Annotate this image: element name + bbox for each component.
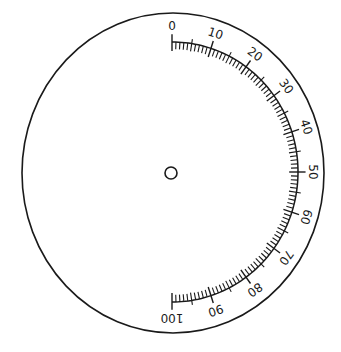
scale-tick (267, 243, 280, 253)
scale-tick (291, 184, 298, 185)
scale-tick (219, 53, 222, 60)
center-hole (165, 167, 177, 179)
scale-tick (281, 120, 287, 123)
scale-tick (289, 191, 301, 193)
scale-tick (261, 253, 266, 258)
scale-tick (251, 74, 256, 79)
scale-tick (219, 285, 222, 292)
scale-tick (229, 58, 232, 64)
scale-tick (216, 51, 219, 58)
scale-tick (254, 77, 259, 82)
scale-tick (289, 151, 301, 153)
scale-tick (280, 117, 286, 120)
scale-tick (245, 269, 249, 275)
scale-tick (280, 224, 286, 227)
scale-tick (288, 144, 295, 146)
scale-tick (290, 187, 297, 188)
scale-tick (187, 43, 188, 50)
scale-tick (254, 262, 259, 267)
scale-tick (202, 291, 204, 298)
graduated-scale (172, 34, 306, 310)
scale-tick (284, 128, 291, 130)
scale-tick (216, 286, 219, 293)
scale-tick (198, 45, 200, 52)
scale-tick (251, 264, 256, 269)
scale-label: 40 (297, 118, 315, 137)
scale-tick (223, 283, 226, 289)
dial-diagram: 0102030405060708090100 (0, 0, 341, 352)
scale-tick (236, 276, 240, 282)
scale-tick (287, 203, 294, 205)
scale-tick (274, 235, 280, 239)
scale-tick (287, 140, 294, 142)
scale-tick (289, 195, 296, 196)
scale-tick (259, 256, 264, 261)
scale-tick (286, 206, 293, 208)
scale-label: 80 (245, 280, 266, 300)
scale-tick (264, 250, 269, 255)
scale-label: 20 (245, 44, 266, 64)
scale-tick (183, 294, 184, 301)
scale-tick (286, 136, 293, 138)
scale-tick (191, 39, 193, 51)
scale-tick (259, 83, 264, 88)
scale-tick (284, 214, 291, 216)
scale-tick (202, 46, 204, 53)
scale-label: 50 (306, 164, 320, 179)
scale-label: 60 (297, 208, 315, 227)
scale-tick (273, 238, 279, 242)
scale-tick (248, 267, 252, 273)
scale-tick (239, 64, 243, 70)
scale-tick (283, 217, 289, 220)
scale-tick (248, 72, 252, 78)
scale-tick (288, 199, 295, 201)
scale-tick (276, 231, 282, 234)
scale-tick (183, 43, 184, 50)
scale-tick (281, 221, 287, 224)
scale-tick (233, 278, 237, 284)
scale-tick (229, 280, 232, 286)
scale-tick (266, 247, 271, 251)
scale-label: 100 (161, 311, 184, 325)
scale-tick (187, 294, 188, 301)
scale-tick (241, 270, 251, 284)
scale-tick (241, 61, 251, 75)
scale-label: 70 (276, 247, 296, 268)
scale-tick (270, 99, 276, 103)
scale-tick (267, 91, 280, 101)
scale-tick (233, 60, 237, 66)
scale-label: 10 (206, 25, 225, 43)
scale-tick (270, 241, 276, 245)
scale-tick (236, 62, 240, 68)
scale-tick (283, 124, 289, 127)
scale-label: 90 (206, 301, 225, 319)
scale-tick (290, 156, 297, 157)
scale-tick (191, 293, 193, 305)
scale-tick (194, 44, 195, 51)
scale-tick (212, 50, 214, 57)
outer-circle (22, 13, 324, 333)
scale-label: 30 (276, 76, 296, 97)
scale-tick (291, 160, 298, 161)
scale-tick (266, 92, 271, 96)
scale-label: 0 (168, 19, 176, 33)
scale-tick (205, 47, 207, 54)
scale-tick (239, 274, 243, 280)
scale-tick (274, 106, 280, 110)
scale-tick (212, 288, 214, 295)
scale-tick (245, 69, 249, 75)
scale-tick (205, 290, 207, 297)
scale-tick (289, 148, 296, 149)
scale-tick (264, 89, 269, 94)
scale-tick (273, 102, 279, 106)
scale-tick (223, 54, 226, 60)
scale-tick (261, 86, 266, 91)
scale-tick (194, 293, 195, 300)
scale-tick (198, 292, 200, 299)
scale-tick (276, 109, 282, 112)
